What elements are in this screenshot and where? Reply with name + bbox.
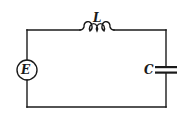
circuit-diagram: L E C bbox=[0, 0, 187, 117]
inductor-label: L bbox=[93, 12, 101, 24]
capacitor-plates bbox=[155, 66, 177, 74]
capacitor-plate-top bbox=[155, 66, 177, 68]
capacitor-label: C bbox=[144, 64, 154, 76]
capacitor-plate-bottom bbox=[155, 72, 177, 74]
source-label: E bbox=[21, 64, 30, 76]
